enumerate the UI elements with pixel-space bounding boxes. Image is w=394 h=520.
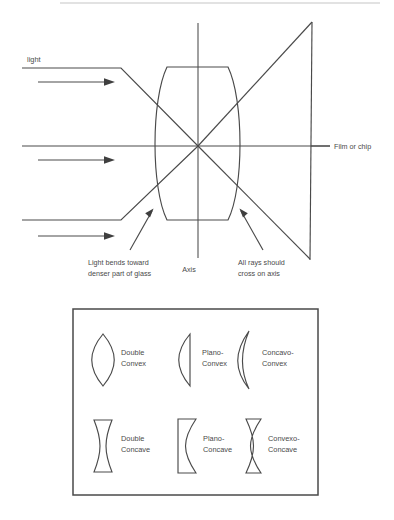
bend-note-line2: denser part of glass (88, 269, 152, 278)
double-convex-label-line2: Convex (121, 359, 146, 368)
convexo-concave-label-line1: Convexo- (268, 434, 300, 443)
optics-figure: light Film or chip Axis Light bends towa… (0, 0, 394, 520)
plano-concave-label-line1: Plano- (203, 434, 225, 443)
double-convex-label-line1: Double (121, 348, 144, 357)
bend-callout-pointer (130, 209, 154, 250)
double-concave-label-line1: Double (121, 434, 144, 443)
top-ray-after-focus (198, 146, 310, 259)
double-convex-shape (92, 334, 115, 386)
concavo-convex-label-line1: Concavo- (262, 348, 294, 357)
cross-note-line2: cross on axis (238, 269, 280, 278)
axis-label: Axis (182, 265, 196, 274)
bottom-incoming-ray (22, 146, 198, 220)
convexo-concave-label-line2: Concave (268, 445, 297, 454)
concavo-convex-label-line2: Convex (262, 359, 287, 368)
double-concave-shape (94, 420, 112, 472)
plano-convex-label-line1: Plano- (202, 348, 224, 357)
top-incoming-ray (22, 68, 198, 146)
light-direction-arrow-bottom (38, 232, 115, 240)
plano-concave-shape (178, 419, 196, 473)
light-direction-arrow-middle (38, 156, 115, 164)
cross-callout-pointer (239, 209, 263, 250)
plano-convex-shape (179, 334, 190, 386)
ray-diagram: light Film or chip Axis Light bends towa… (22, 22, 371, 278)
film-or-chip-label: Film or chip (334, 142, 371, 151)
light-direction-arrow-top (38, 78, 115, 86)
plano-convex-label-line2: Convex (202, 359, 227, 368)
bottom-ray-after-focus (198, 22, 312, 146)
light-label: light (27, 55, 41, 64)
figure-page: light Film or chip Axis Light bends towa… (0, 0, 394, 520)
lens-types-panel: Double Convex Plano- Convex Concavo- Con… (73, 309, 318, 495)
bend-note-line1: Light bends toward (88, 258, 149, 267)
film-plane-line (310, 22, 312, 260)
plano-concave-label-line2: Concave (203, 445, 232, 454)
concavo-convex-shape (238, 331, 249, 389)
double-concave-label-line2: Concave (121, 445, 150, 454)
cross-note-line1: All rays should (238, 258, 285, 267)
convexo-concave-shape (246, 419, 261, 473)
